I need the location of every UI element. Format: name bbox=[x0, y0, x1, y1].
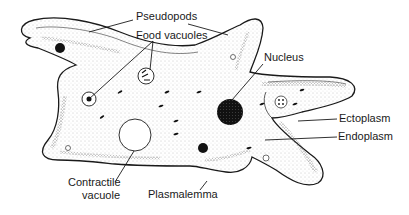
label-endoplasm: Endoplasm bbox=[338, 130, 393, 143]
label-nucleus: Nucleus bbox=[264, 51, 304, 64]
nucleus bbox=[217, 99, 243, 125]
small-vacuole-top bbox=[231, 55, 236, 60]
label-ectoplasm: Ectoplasm bbox=[339, 112, 390, 125]
label-food-vacuoles: Food vacuoles bbox=[136, 29, 208, 42]
dark-granule bbox=[55, 43, 65, 53]
ectoplasm-line bbox=[298, 119, 337, 121]
label-plasmalemma: Plasmalemma bbox=[148, 188, 218, 201]
contractile-vacuole bbox=[119, 119, 151, 151]
small-vacuole-right bbox=[275, 96, 287, 108]
small-vacuole-left bbox=[66, 146, 71, 151]
dark-granule-bottom bbox=[198, 143, 208, 153]
label-contractile-vacuole-line1: Contractile bbox=[68, 176, 120, 189]
small-vacuole-lower-right bbox=[263, 155, 269, 161]
label-pseudopods: Pseudopods bbox=[136, 10, 197, 23]
cell-body bbox=[21, 18, 354, 185]
label-contractile-vacuole-line2: vacuole bbox=[68, 189, 120, 202]
